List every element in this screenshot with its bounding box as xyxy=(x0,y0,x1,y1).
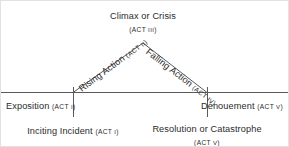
label-climax-text: Climax or Crisis xyxy=(110,11,176,21)
label-climax-act: (ACT III) xyxy=(110,26,176,34)
label-denouement-text: Dénouement xyxy=(201,101,257,111)
label-inciting-text: Inciting Incident xyxy=(27,126,95,136)
label-denouement-act: (ACT V) xyxy=(257,103,283,110)
label-resolution-or-catastrophe: Resolution or Catastrophe (ACT V) xyxy=(152,118,261,147)
label-exposition: Exposition (ACT I) xyxy=(6,95,75,114)
label-climax-or-crisis: Climax or Crisis (ACT III) xyxy=(110,5,176,34)
label-inciting-act: (ACT I) xyxy=(95,128,118,135)
label-resolution-text: Resolution or Catastrophe xyxy=(152,124,261,134)
label-resolution-act: (ACT V) xyxy=(152,139,261,147)
label-exposition-text: Exposition xyxy=(6,101,52,111)
label-exposition-act: (ACT I) xyxy=(52,103,75,110)
freytag-pyramid-diagram: Climax or Crisis (ACT III) Rising Action… xyxy=(0,0,289,147)
label-inciting-incident: Inciting Incident (ACT I) xyxy=(27,120,119,139)
label-denouement: Dénouement (ACT V) xyxy=(201,95,283,114)
